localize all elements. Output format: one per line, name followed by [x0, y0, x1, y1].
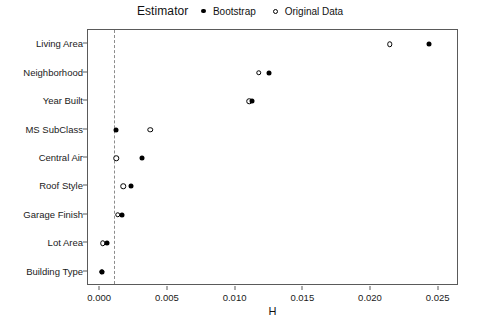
data-point-bootstrap: [119, 212, 124, 217]
y-axis-tick-label: Year Built: [43, 95, 83, 106]
y-axis-tick-label: Lot Area: [48, 237, 83, 248]
y-axis-tick-label: MS SubClass: [25, 123, 83, 134]
legend-title: Estimator: [137, 4, 189, 18]
filled-dot-icon: [201, 9, 206, 14]
data-point-original-data: [114, 155, 120, 161]
data-point-bootstrap: [267, 70, 272, 75]
y-axis-tick-label: Building Type: [26, 265, 83, 276]
data-point-bootstrap: [427, 42, 432, 47]
legend-item-bootstrap[interactable]: Bootstrap: [201, 6, 255, 17]
data-point-bootstrap: [249, 99, 254, 104]
plot-panel: [87, 29, 458, 285]
open-circle-icon: [273, 9, 278, 14]
data-point-original-data: [387, 41, 393, 47]
data-point-bootstrap: [114, 127, 119, 132]
legend-label-original-data: Original Data: [285, 6, 343, 17]
y-axis-tick-label: Living Area: [36, 38, 83, 49]
x-axis-tick-mark: [437, 286, 438, 290]
y-axis-tick-label: Central Air: [39, 152, 83, 163]
data-point-bootstrap: [129, 184, 134, 189]
dot-plot-chart: Estimator Bootstrap Original Data Living…: [0, 0, 480, 326]
x-axis-tick-label: 0.010: [223, 292, 247, 303]
x-axis-tick-label: 0.000: [87, 292, 111, 303]
data-point-original-data: [120, 184, 126, 190]
x-axis-title: H: [87, 305, 458, 317]
data-point-bootstrap: [140, 156, 145, 161]
y-axis-labels: Living AreaNeighborhoodYear BuiltMS SubC…: [0, 0, 83, 326]
x-axis-tick-mark: [302, 286, 303, 290]
data-point-bootstrap: [104, 241, 109, 246]
data-point-bootstrap: [99, 269, 104, 274]
y-axis-tick-label: Garage Finish: [23, 208, 83, 219]
legend-label-bootstrap: Bootstrap: [213, 6, 256, 17]
x-axis-tick-label: 0.020: [358, 292, 382, 303]
legend-item-original-data[interactable]: Original Data: [273, 6, 343, 17]
x-axis-tick-label: 0.005: [155, 292, 179, 303]
data-point-original-data: [256, 70, 262, 76]
data-point-original-data: [148, 127, 154, 133]
x-axis-tick-label: 0.025: [426, 292, 450, 303]
x-axis-tick-label: 0.015: [290, 292, 314, 303]
y-axis-tick-label: Neighborhood: [23, 66, 83, 77]
x-axis-tick-mark: [234, 286, 235, 290]
x-axis-tick-mark: [99, 286, 100, 290]
x-axis-tick-mark: [166, 286, 167, 290]
x-axis-tick-mark: [369, 286, 370, 290]
y-axis-tick-label: Roof Style: [39, 180, 83, 191]
